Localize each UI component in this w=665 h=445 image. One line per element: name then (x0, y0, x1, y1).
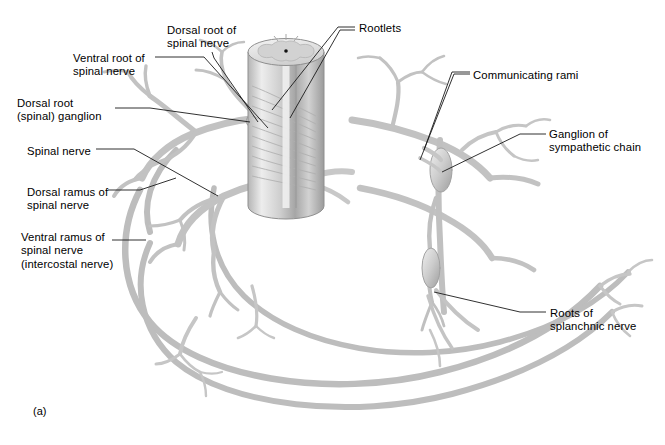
label-dorsal-root: Dorsal root of spinal nerve (167, 24, 236, 51)
label-roots-splanchnic-nerve: Roots of splanchnic nerve (550, 307, 636, 334)
label-rootlets: Rootlets (359, 22, 401, 35)
label-spinal-nerve: Spinal nerve (27, 145, 91, 158)
label-ganglion-sympathetic-chain: Ganglion of sympathetic chain (549, 128, 641, 155)
figure-caption: (a) (33, 405, 46, 417)
right-nerve-tuft-upper (462, 119, 550, 161)
label-ventral-ramus: Ventral ramus of spinal nerve (intercost… (21, 231, 113, 271)
sympathetic-ganglion-lower (422, 248, 440, 288)
spinal-cord (248, 34, 324, 219)
nerve-network (104, 40, 652, 407)
label-communicating-rami: Communicating rami (473, 69, 578, 82)
label-dorsal-ramus: Dorsal ramus of spinal nerve (27, 186, 108, 213)
label-dorsal-root-ganglion: Dorsal root (spinal) ganglion (17, 97, 102, 124)
spinal-nerve-right-lower (360, 188, 534, 270)
label-ventral-root: Ventral root of spinal nerve (73, 52, 145, 79)
central-canal (284, 49, 288, 53)
anatomy-figure: Dorsal root of spinal nerve Rootlets Ven… (0, 0, 665, 445)
